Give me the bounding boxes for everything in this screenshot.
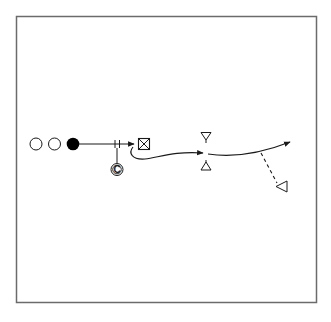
- active-player-icon: [67, 138, 80, 151]
- crossed-box-icon: [139, 139, 150, 150]
- drill-diagram: C: [0, 0, 331, 322]
- coach-label: C: [113, 164, 120, 175]
- coach-icon: C: [111, 164, 123, 176]
- field-border: [17, 17, 317, 303]
- waiting-player-2-icon: [49, 138, 61, 150]
- waiting-player-1-icon: [30, 138, 42, 150]
